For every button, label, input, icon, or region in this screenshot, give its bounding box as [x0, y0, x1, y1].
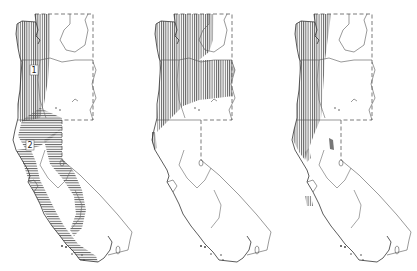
zone-label-1: 1 [32, 66, 37, 75]
map-2 [152, 14, 271, 262]
map-1: 1 2 [13, 14, 132, 262]
hatched-region [293, 14, 331, 160]
maps-svg: 1 2 [0, 0, 417, 271]
map-figure: 1 2 [0, 0, 417, 271]
zone-label-2: 2 [28, 141, 33, 150]
hatched-region [155, 14, 235, 132]
hatched-patch [329, 138, 334, 150]
hatched-patch [305, 196, 313, 206]
map-3 [292, 14, 411, 262]
